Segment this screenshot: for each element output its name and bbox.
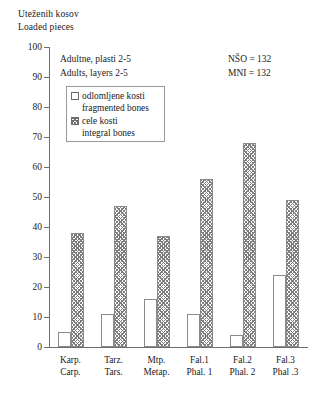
bar-integral-Fal3: [286, 200, 299, 347]
bar-integral-Tarz: [114, 206, 127, 347]
y-axis-tick-label: 100: [16, 42, 42, 52]
annotation-left-line-1: Adultne, plasti 2-5: [60, 52, 131, 66]
x-axis-label-primary: Fal.3: [256, 354, 316, 366]
y-axis-tick-label: 90: [16, 72, 42, 82]
bar-fragmented-Mtp: [144, 299, 157, 347]
annotation-right: NŠO = 132 MNI = 132: [228, 52, 271, 80]
y-axis-tick-label: 60: [16, 162, 42, 172]
legend-swatch-integral-icon: [71, 117, 79, 125]
y-axis-tick-label: 30: [16, 252, 42, 262]
x-axis-label-secondary: Phal .3: [256, 366, 316, 378]
y-axis-tick-label: 40: [16, 222, 42, 232]
legend-swatch-fragmented-icon: [71, 92, 79, 100]
y-axis-tick: [44, 347, 50, 348]
bar-fragmented-Fal3: [273, 275, 286, 347]
bar-fragmented-Tarz: [101, 314, 114, 347]
bar-fragmented-Karp: [58, 332, 71, 347]
legend-label-fragmented-primary: odlomljene kosti: [82, 91, 145, 101]
y-axis-tick-label: 20: [16, 282, 42, 292]
bar-fragmented-Fal1: [187, 314, 200, 347]
annotation-left: Adultne, plasti 2-5 Adults, layers 2-5: [60, 52, 131, 80]
y-axis-tick-label: 10: [16, 312, 42, 322]
y-axis-tick-label: 80: [16, 102, 42, 112]
legend-label-fragmented-secondary: fragmented bones: [82, 102, 149, 114]
bar-integral-Mtp: [157, 236, 170, 347]
legend-label-integral-secondary: integral bones: [82, 127, 135, 139]
legend-label-integral-primary: cele kosti: [82, 116, 118, 126]
annotation-left-line-2: Adults, layers 2-5: [60, 66, 131, 80]
bar-integral-Karp: [71, 233, 84, 347]
axis-title-line-2: Loaded pieces: [18, 21, 79, 34]
annotation-right-line-1: NŠO = 132: [228, 52, 271, 66]
y-axis-tick-label: 70: [16, 132, 42, 142]
axis-title-line-1: Uteženih kosov: [18, 8, 79, 21]
x-axis-label-Fal3: Fal.3Phal .3: [256, 354, 316, 378]
bar-integral-Fal2: [243, 143, 256, 347]
bar-integral-Fal1: [200, 179, 213, 347]
bar-chart: Uteženih kosov Loaded pieces 01020304050…: [0, 0, 322, 404]
annotation-right-line-2: MNI = 132: [228, 66, 271, 80]
chart-axis-title: Uteženih kosov Loaded pieces: [18, 8, 79, 34]
legend-item-integral: cele kosti integral bones: [71, 115, 135, 139]
chart-legend: odlomljene kosti fragmented bones cele k…: [66, 86, 165, 142]
x-axis-line: [49, 347, 308, 348]
bar-fragmented-Fal2: [230, 335, 243, 347]
y-axis-tick-label: 50: [16, 192, 42, 202]
legend-item-fragmented: odlomljene kosti fragmented bones: [71, 90, 149, 114]
y-axis-tick-label: 0: [16, 342, 42, 352]
